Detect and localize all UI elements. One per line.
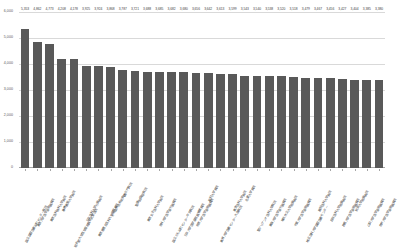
bar[interactable] (265, 76, 274, 168)
bar-slot: 3,538 (263, 12, 275, 168)
x-axis-tickmark (25, 169, 26, 171)
bar[interactable] (338, 79, 347, 168)
bar[interactable] (94, 66, 103, 168)
x-axis-tick-labels: 国立国際医療研究センター病院東京大学医学部附属病院東京医科歯科大学病院慶應義塾大… (19, 169, 385, 231)
bar[interactable] (253, 76, 262, 168)
x-axis-tickmark (159, 169, 160, 171)
bar[interactable] (277, 76, 286, 168)
bar-value-label: 3,380 (375, 8, 383, 11)
bar-slot: 3,656 (190, 12, 202, 168)
x-axis-tickmark (294, 169, 295, 171)
bar[interactable] (301, 78, 310, 168)
bar[interactable] (362, 80, 371, 168)
bar[interactable] (350, 80, 359, 169)
y-axis-tick-label: 1,000 (0, 140, 13, 144)
bar[interactable] (106, 67, 115, 168)
x-axis-tickmark (123, 169, 124, 171)
bar-value-label: 3,680 (180, 8, 188, 11)
bar[interactable] (314, 78, 323, 168)
bar-slot: 3,721 (129, 12, 141, 168)
bar-slot: 3,479 (300, 12, 312, 168)
bar-value-label: 3,685 (155, 8, 163, 11)
bar[interactable] (33, 42, 42, 168)
bar[interactable] (204, 73, 213, 168)
bar-series: 5,3534,8624,7734,2084,1783,9253,9243,868… (19, 12, 385, 168)
x-axis-tickmark (306, 169, 307, 171)
y-axis-tick-label: 4,000 (0, 62, 13, 66)
bar[interactable] (179, 72, 188, 168)
bar[interactable] (45, 44, 54, 168)
bar[interactable] (131, 71, 140, 168)
bar-value-label: 3,540 (253, 8, 261, 11)
y-axis-tick-label: 2,000 (0, 114, 13, 118)
bar-slot: 3,688 (141, 12, 153, 168)
bar[interactable] (155, 72, 164, 168)
bar[interactable] (192, 73, 201, 168)
bar-slot: 3,868 (104, 12, 116, 168)
bar[interactable] (143, 72, 152, 168)
bar-slot: 4,862 (31, 12, 43, 168)
bar[interactable] (82, 66, 91, 168)
x-axis-tick-label: 埼玉医科大学国際医療センター (306, 206, 330, 243)
bar[interactable] (289, 77, 298, 168)
bar-value-label: 3,467 (314, 8, 322, 11)
x-axis-tickmark (379, 169, 380, 171)
bar[interactable] (118, 70, 127, 168)
bar[interactable] (228, 74, 237, 168)
bar-slot: 3,404 (348, 12, 360, 168)
bar[interactable] (167, 72, 176, 168)
bar-slot: 4,773 (43, 12, 55, 168)
x-axis-tickmark (184, 169, 185, 171)
bar-slot: 3,924 (92, 12, 104, 168)
x-axis-tickmark (196, 169, 197, 171)
bar[interactable] (326, 78, 335, 168)
x-axis-tickmark (342, 169, 343, 171)
bar-slot: 3,680 (178, 12, 190, 168)
x-axis-tickmark (50, 169, 51, 171)
bar-value-label: 3,479 (302, 8, 310, 11)
bar-slot: 4,178 (68, 12, 80, 168)
bar-value-label: 3,456 (326, 8, 334, 11)
x-axis-tick-label: 北里大学病院 (245, 185, 257, 202)
bar-slot: 3,682 (165, 12, 177, 168)
bar-slot: 3,456 (324, 12, 336, 168)
bar-slot: 5,353 (19, 12, 31, 168)
x-axis-tickmark (233, 169, 234, 171)
bar-value-label: 3,613 (216, 8, 224, 11)
bar-value-label: 3,385 (363, 8, 371, 11)
bar[interactable] (240, 76, 249, 168)
x-axis-tickmark (135, 169, 136, 171)
bar-value-label: 4,178 (70, 8, 78, 11)
bar-slot: 3,427 (336, 12, 348, 168)
bar-slot: 3,467 (312, 12, 324, 168)
x-axis-tickmark (74, 169, 75, 171)
x-axis-tickmark (172, 169, 173, 171)
bar-slot: 3,685 (153, 12, 165, 168)
bar-value-label: 3,682 (168, 8, 176, 11)
bar[interactable] (216, 74, 225, 168)
bar-value-label: 4,862 (33, 8, 41, 11)
bar-value-label: 3,642 (204, 8, 212, 11)
x-axis-tickmark (355, 169, 356, 171)
bar-value-label: 3,404 (351, 8, 359, 11)
bar-value-label: 3,924 (94, 8, 102, 11)
x-axis-tick-label: 虎の門病院 (123, 183, 133, 197)
plot-area: 5,3534,8624,7734,2084,1783,9253,9243,868… (19, 12, 385, 168)
bar[interactable] (57, 59, 66, 168)
x-axis-tickmark (98, 169, 99, 171)
bar-slot: 3,787 (117, 12, 129, 168)
x-axis-tickmark (220, 169, 221, 171)
bar-value-label: 3,427 (338, 8, 346, 11)
bar-value-label: 3,868 (107, 8, 115, 11)
y-axis-tick-label: 3,000 (0, 88, 13, 92)
bar[interactable] (70, 59, 79, 168)
bar[interactable] (21, 29, 30, 168)
bar-value-label: 3,543 (241, 8, 249, 11)
x-axis-tickmark (367, 169, 368, 171)
bar-value-label: 3,721 (131, 8, 139, 11)
bar[interactable] (375, 80, 384, 168)
bar-value-label: 3,656 (192, 8, 200, 11)
x-axis-tickmark (330, 169, 331, 171)
x-axis-tickmark (86, 169, 87, 171)
bar-value-label: 3,518 (290, 8, 298, 11)
